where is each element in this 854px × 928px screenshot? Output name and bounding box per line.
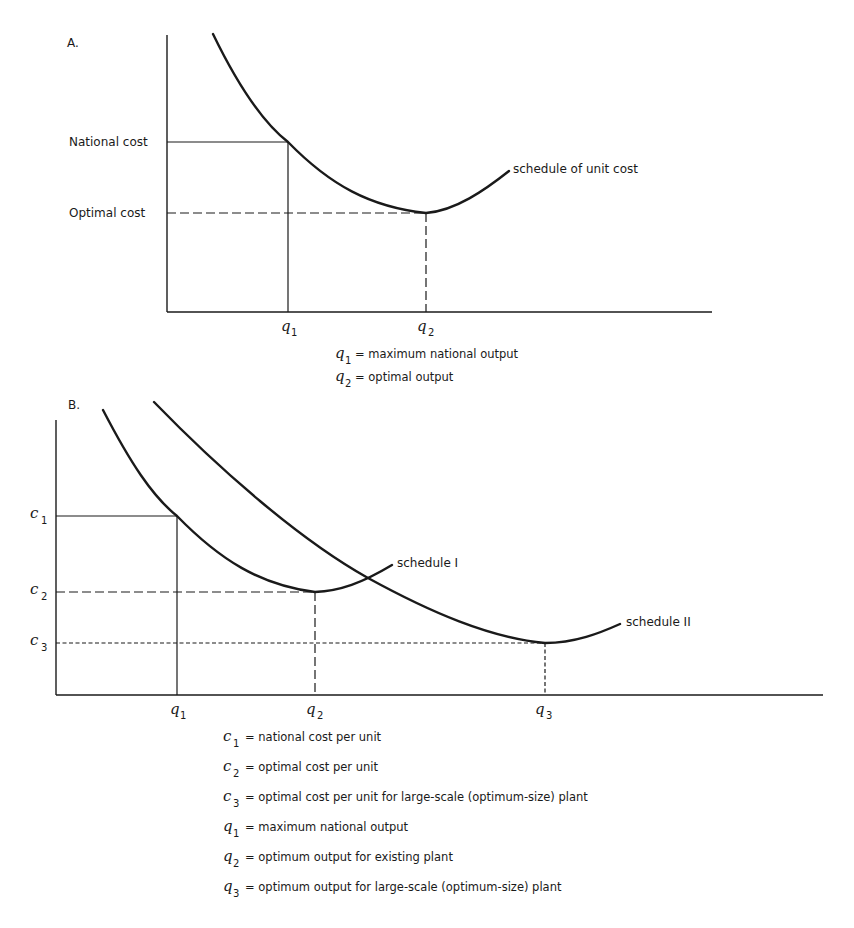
svg-text:= optimum output for large-sca: = optimum output for large-scale (optimu… (245, 880, 562, 894)
svg-text:q: q (335, 344, 345, 362)
svg-text:= optimal cost per unit for la: = optimal cost per unit for large-scale … (245, 790, 588, 804)
svg-text:c: c (30, 504, 39, 522)
svg-text:3: 3 (546, 710, 552, 721)
svg-text:1: 1 (41, 515, 47, 526)
panel-b-x-label-q2: q 2 (306, 700, 323, 721)
panel-b-title: B. (68, 398, 80, 412)
svg-text:c: c (223, 787, 232, 805)
schedule-ii-curve (154, 402, 620, 643)
schedule-ii-label: schedule II (626, 615, 691, 629)
panel-a-x-label-q2: q 2 (417, 317, 434, 338)
legend-item: q 1 = maximum national output (223, 817, 409, 839)
legend-item: q 3 = optimum output for large-scale (op… (223, 877, 562, 899)
legend-item: q 1 = maximum national output (335, 344, 519, 366)
national-cost-label: National cost (69, 135, 148, 149)
svg-text:c: c (223, 727, 232, 745)
svg-text:2: 2 (428, 327, 434, 338)
svg-text:2: 2 (233, 858, 239, 869)
panel-a-x-label-q1: q 1 (281, 317, 297, 338)
svg-text:= maximum national output: = maximum national output (355, 347, 519, 361)
svg-text:q: q (335, 367, 345, 385)
svg-text:3: 3 (233, 888, 239, 899)
svg-text:3: 3 (233, 798, 239, 809)
svg-text:1: 1 (233, 828, 239, 839)
svg-text:= optimal output: = optimal output (355, 370, 454, 384)
legend-item: c 1 = national cost per unit (223, 727, 382, 749)
svg-text:q: q (170, 700, 180, 718)
legend-item: q 2 = optimal output (335, 367, 454, 389)
panel-a-legend: q 1 = maximum national output q 2 = opti… (335, 344, 519, 389)
svg-text:= optimal cost per unit: = optimal cost per unit (245, 760, 378, 774)
svg-text:c: c (223, 757, 232, 775)
svg-text:2: 2 (317, 710, 323, 721)
legend-item: q 2 = optimum output for existing plant (223, 847, 453, 869)
svg-text:q: q (281, 317, 291, 335)
unit-cost-curve (213, 34, 509, 213)
figure: A. National cost Optimal cost schedule o… (0, 0, 854, 928)
y-label-c1: c 1 (30, 504, 47, 526)
svg-text:1: 1 (345, 355, 351, 366)
svg-text:3: 3 (41, 642, 47, 653)
svg-text:2: 2 (41, 591, 47, 602)
svg-text:1: 1 (180, 710, 186, 721)
panel-a-title: A. (67, 36, 79, 50)
panel-b-x-label-q1: q 1 (170, 700, 186, 721)
svg-text:q: q (223, 817, 233, 835)
svg-text:q: q (223, 877, 233, 895)
svg-text:c: c (30, 580, 39, 598)
svg-text:q: q (417, 317, 427, 335)
svg-text:1: 1 (291, 327, 297, 338)
svg-text:2: 2 (233, 768, 239, 779)
svg-text:1: 1 (233, 738, 239, 749)
svg-text:c: c (30, 631, 39, 649)
panel-a: A. National cost Optimal cost schedule o… (67, 34, 712, 389)
svg-text:= maximum national output: = maximum national output (245, 820, 409, 834)
panel-b: B. schedule I schedule II c 1 c 2 c 3 (30, 398, 823, 899)
svg-text:2: 2 (345, 378, 351, 389)
schedule-i-curve (103, 410, 392, 592)
svg-text:q: q (306, 700, 316, 718)
legend-item: c 3 = optimal cost per unit for large-sc… (223, 787, 588, 809)
legend-item: c 2 = optimal cost per unit (223, 757, 378, 779)
optimal-cost-label: Optimal cost (69, 206, 145, 220)
svg-text:q: q (223, 847, 233, 865)
panel-b-legend: c 1 = national cost per unit c 2 = optim… (223, 727, 588, 899)
svg-text:q: q (535, 700, 545, 718)
schedule-i-label: schedule I (397, 556, 458, 570)
y-label-c2: c 2 (30, 580, 47, 602)
panel-b-x-label-q3: q 3 (535, 700, 552, 721)
unit-cost-curve-label: schedule of unit cost (513, 162, 638, 176)
svg-text:= national cost per unit: = national cost per unit (245, 730, 382, 744)
svg-text:= optimum output for existing: = optimum output for existing plant (245, 850, 453, 864)
y-label-c3: c 3 (30, 631, 47, 653)
